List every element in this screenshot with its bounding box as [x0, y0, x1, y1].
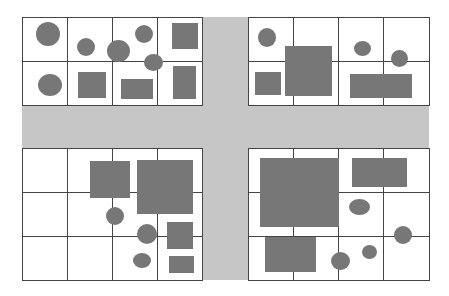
circle-marker: [391, 50, 408, 67]
circle-marker: [135, 25, 153, 43]
circle-marker: [362, 245, 377, 259]
circle-marker: [77, 38, 95, 56]
grid-line: [22, 148, 23, 281]
building-rect: [137, 160, 193, 214]
circle-marker: [36, 22, 60, 46]
circle-marker: [137, 224, 157, 244]
circle-marker: [133, 253, 151, 268]
vertical-road: [202, 17, 248, 280]
circle-marker: [354, 41, 371, 56]
building-rect: [172, 23, 198, 49]
circle-marker: [107, 40, 130, 62]
grid-line: [248, 148, 249, 281]
grid-line: [22, 17, 203, 18]
building-rect: [350, 74, 412, 98]
circle-marker: [106, 207, 124, 225]
building-rect: [121, 79, 153, 99]
building-rect: [285, 46, 332, 96]
grid-line: [22, 148, 203, 149]
building-rect: [78, 72, 106, 98]
grid-line: [202, 148, 203, 281]
building-rect: [352, 158, 407, 187]
building-rect: [90, 161, 130, 198]
grid-line: [429, 148, 430, 281]
building-rect: [265, 237, 316, 272]
building-rect: [260, 158, 339, 227]
circle-marker: [349, 199, 370, 215]
grid-line: [22, 61, 203, 62]
building-rect: [255, 72, 281, 95]
circle-marker: [394, 226, 412, 244]
grid-line: [22, 105, 203, 106]
building-rect: [173, 66, 196, 99]
grid-line: [22, 280, 203, 281]
circle-marker: [258, 28, 276, 47]
grid-line: [248, 105, 430, 106]
circle-marker: [331, 252, 350, 270]
grid-line: [248, 17, 430, 18]
building-rect: [167, 222, 193, 249]
grid-line: [248, 280, 430, 281]
grid-line: [67, 148, 68, 281]
building-rect: [169, 256, 194, 273]
grid-line: [248, 148, 430, 149]
circle-marker: [144, 54, 163, 71]
circle-marker: [38, 74, 62, 96]
